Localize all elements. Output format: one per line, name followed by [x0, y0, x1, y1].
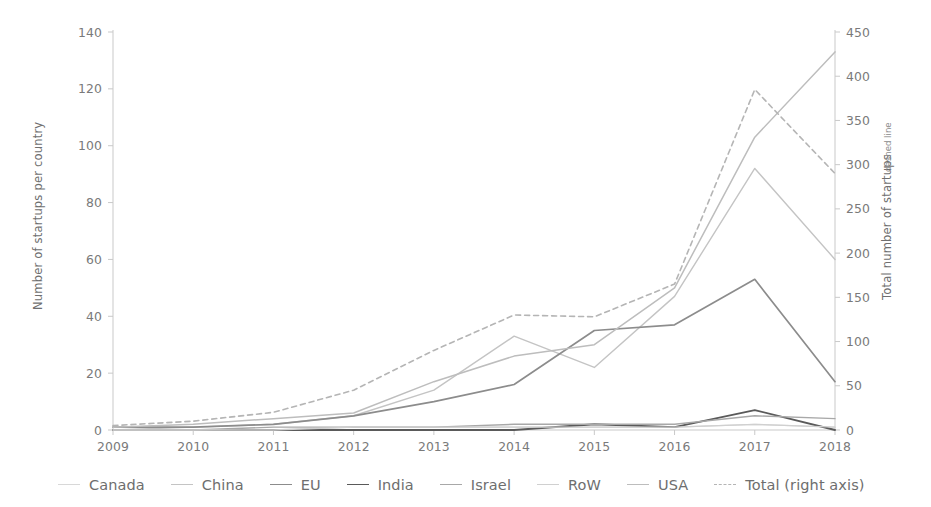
y-tick-right-350: 350 — [846, 113, 870, 128]
legend-swatch-icon — [627, 484, 649, 485]
chart-legend: CanadaChinaEUIndiaIsraelRoWUSATotal (rig… — [0, 462, 931, 507]
x-tick-2014: 2014 — [498, 439, 530, 454]
legend-swatch-icon — [171, 484, 193, 485]
legend-item-label: China — [202, 477, 244, 493]
series-line-eu — [113, 279, 835, 427]
legend-item-label: India — [378, 477, 414, 493]
legend-swatch-icon — [58, 484, 80, 485]
legend-swatch-icon — [714, 484, 736, 485]
legend-item-israel[interactable]: Israel — [440, 477, 511, 493]
series-line-usa — [113, 52, 835, 427]
x-axis: 2009201020112012201320142015201620172018 — [97, 430, 851, 454]
legend-swatch-icon — [270, 484, 292, 485]
legend-item-canada[interactable]: Canada — [58, 477, 145, 493]
legend-item-label: RoW — [568, 477, 601, 493]
legend-item-label: Israel — [471, 477, 511, 493]
legend-item-row[interactable]: RoW — [537, 477, 601, 493]
y-axis-left: 020406080100120140 — [78, 25, 113, 438]
y-tick-right-200: 200 — [846, 246, 870, 261]
y-tick-left-60: 60 — [86, 252, 102, 267]
line-chart-figure: Number of startups per country Total num… — [0, 0, 931, 460]
legend-item-china[interactable]: China — [171, 477, 244, 493]
y-axis-right: 050100150200250300350400450 — [835, 25, 870, 438]
y-tick-left-120: 120 — [78, 81, 102, 96]
legend-item-usa[interactable]: USA — [627, 477, 688, 493]
x-tick-2012: 2012 — [338, 439, 370, 454]
x-tick-2009: 2009 — [97, 439, 129, 454]
y-tick-right-0: 0 — [846, 423, 854, 438]
x-tick-2013: 2013 — [418, 439, 450, 454]
y-tick-right-300: 300 — [846, 157, 870, 172]
series-lines — [113, 52, 835, 430]
legend-swatch-icon — [537, 484, 559, 485]
y-tick-right-450: 450 — [846, 25, 870, 40]
y-tick-right-150: 150 — [846, 290, 870, 305]
x-tick-2015: 2015 — [578, 439, 610, 454]
chart-canvas: Number of startups per country Total num… — [0, 0, 931, 460]
y-tick-left-40: 40 — [86, 309, 102, 324]
y-tick-left-140: 140 — [78, 25, 102, 40]
y-tick-left-100: 100 — [78, 138, 102, 153]
series-line-total-right-axis — [113, 89, 835, 425]
y-tick-left-80: 80 — [86, 195, 102, 210]
x-tick-2011: 2011 — [257, 439, 289, 454]
y-tick-right-400: 400 — [846, 69, 870, 84]
y-axis-right-title-suffix: dashed line — [883, 122, 893, 172]
legend-item-label: Total (right axis) — [745, 477, 864, 493]
x-tick-2017: 2017 — [739, 439, 771, 454]
y-tick-left-20: 20 — [86, 366, 102, 381]
x-tick-2016: 2016 — [659, 439, 691, 454]
y-tick-right-250: 250 — [846, 201, 870, 216]
legend-swatch-icon — [440, 484, 462, 485]
legend-item-eu[interactable]: EU — [270, 477, 321, 493]
x-tick-2010: 2010 — [177, 439, 209, 454]
y-axis-right-title-group: Total number of startups dashed line — [880, 122, 894, 301]
legend-item-label: Canada — [89, 477, 145, 493]
y-axis-right-title: Total number of startups — [880, 154, 894, 301]
legend-item-label: EU — [301, 477, 321, 493]
y-tick-left-0: 0 — [94, 423, 102, 438]
y-axis-left-title: Number of startups per country — [31, 122, 45, 310]
x-tick-2018: 2018 — [819, 439, 851, 454]
legend-swatch-icon — [347, 484, 369, 485]
legend-item-india[interactable]: India — [347, 477, 414, 493]
series-line-china — [113, 168, 835, 430]
legend-item-total-right-axis[interactable]: Total (right axis) — [714, 477, 864, 493]
legend-item-label: USA — [658, 477, 688, 493]
chart-page: Number of startups per country Total num… — [0, 0, 931, 507]
y-tick-right-50: 50 — [846, 378, 862, 393]
y-tick-right-100: 100 — [846, 334, 870, 349]
